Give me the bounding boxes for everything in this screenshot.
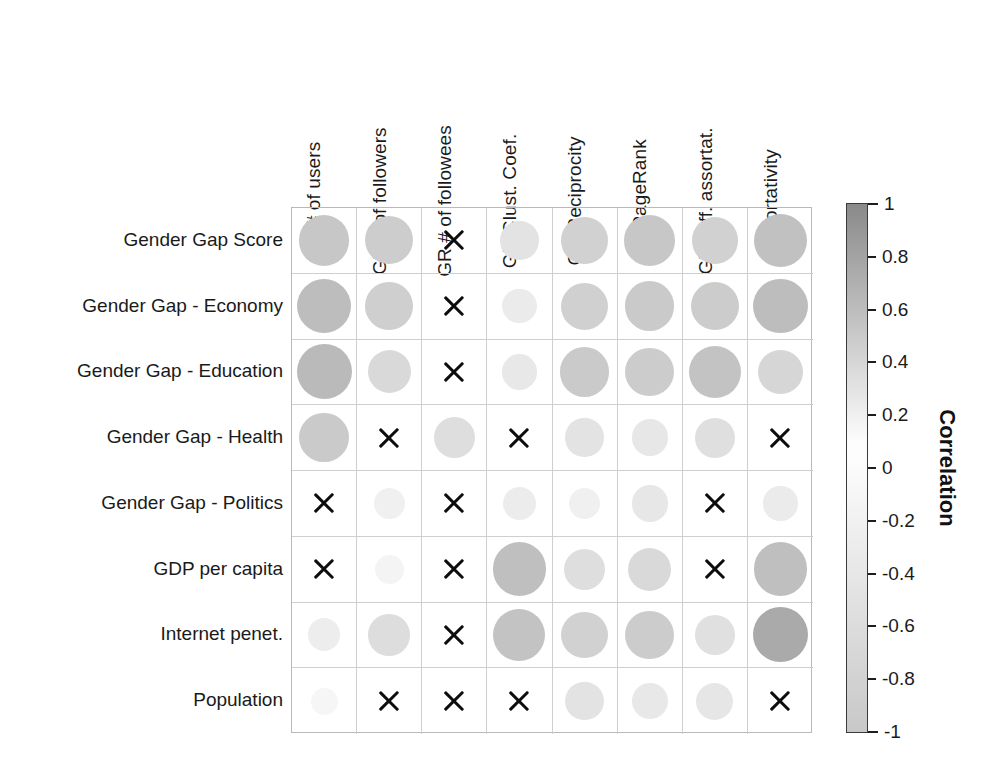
correlation-dot bbox=[297, 344, 352, 399]
matrix-cell bbox=[422, 274, 487, 340]
row-label-5: GDP per capita bbox=[0, 536, 283, 602]
row-label-3: Gender Gap - Health bbox=[0, 404, 283, 470]
matrix-cell bbox=[618, 668, 683, 734]
colorbar-tick-label: -1 bbox=[884, 721, 901, 743]
not-significant-x-icon bbox=[441, 490, 467, 516]
correlation-dot bbox=[754, 542, 807, 595]
matrix-cell bbox=[683, 405, 748, 471]
not-significant-x-icon bbox=[441, 227, 467, 253]
correlation-matrix-figure: GR # of usersGR # of followersGR # of fo… bbox=[0, 0, 1000, 772]
correlation-dot bbox=[308, 618, 341, 651]
matrix-cell bbox=[292, 471, 357, 537]
colorbar-tick-mark bbox=[868, 520, 876, 522]
correlation-dot bbox=[299, 413, 348, 462]
matrix-cell bbox=[487, 340, 552, 406]
colorbar-tick-mark bbox=[868, 625, 876, 627]
correlation-dot bbox=[434, 417, 475, 458]
colorbar-tick-mark bbox=[868, 467, 876, 469]
correlation-dot bbox=[624, 215, 674, 265]
matrix-cell bbox=[357, 405, 422, 471]
matrix-cell bbox=[487, 668, 552, 734]
correlation-dot bbox=[753, 607, 808, 662]
matrix-cell bbox=[487, 603, 552, 669]
matrix-cell bbox=[748, 208, 813, 274]
colorbar-tick-mark bbox=[868, 256, 876, 258]
matrix-cell bbox=[618, 274, 683, 340]
matrix-cell bbox=[683, 274, 748, 340]
matrix-cell bbox=[618, 405, 683, 471]
colorbar-title-text: Correlation bbox=[934, 409, 960, 526]
matrix-cell bbox=[357, 668, 422, 734]
matrix-cell bbox=[553, 405, 618, 471]
colorbar-tick-label: 0.8 bbox=[882, 246, 908, 268]
colorbar-tick-mark bbox=[868, 309, 876, 311]
colorbar-tick-mark bbox=[868, 573, 876, 575]
matrix-cell bbox=[422, 471, 487, 537]
correlation-dot bbox=[689, 346, 741, 398]
correlation-dot bbox=[632, 485, 668, 521]
not-significant-x-icon bbox=[506, 425, 532, 451]
matrix-cell bbox=[748, 603, 813, 669]
correlation-dot bbox=[754, 214, 807, 267]
matrix-cell bbox=[357, 208, 422, 274]
row-label-2: Gender Gap - Education bbox=[0, 339, 283, 405]
row-label-4: Gender Gap - Politics bbox=[0, 470, 283, 536]
matrix-cell bbox=[422, 537, 487, 603]
matrix-cell bbox=[357, 537, 422, 603]
correlation-dot bbox=[500, 221, 538, 259]
matrix-cell bbox=[292, 340, 357, 406]
correlation-dot bbox=[625, 281, 674, 330]
correlation-dot bbox=[632, 683, 668, 719]
colorbar-tick-label: 0.4 bbox=[882, 351, 908, 373]
correlation-dot bbox=[375, 555, 404, 584]
matrix-cell bbox=[553, 603, 618, 669]
correlation-dot bbox=[374, 488, 405, 519]
matrix-cell bbox=[748, 471, 813, 537]
not-significant-x-icon bbox=[441, 293, 467, 319]
not-significant-x-icon bbox=[376, 425, 402, 451]
correlation-dot bbox=[368, 614, 409, 655]
correlation-dot bbox=[502, 354, 538, 390]
row-label-1: Gender Gap - Economy bbox=[0, 273, 283, 339]
correlation-dot bbox=[561, 612, 607, 658]
colorbar-tick-label: -0.8 bbox=[882, 668, 915, 690]
correlation-dot bbox=[565, 682, 603, 720]
correlation-dot bbox=[503, 487, 537, 521]
colorbar-tick-label: -0.2 bbox=[882, 510, 915, 532]
row-label-axis: Gender Gap ScoreGender Gap - EconomyGend… bbox=[0, 207, 283, 733]
correlation-dot bbox=[625, 611, 673, 659]
correlation-dot bbox=[311, 688, 338, 715]
correlation-dot bbox=[561, 217, 607, 263]
matrix-cell bbox=[487, 537, 552, 603]
correlation-dot bbox=[758, 350, 802, 394]
correlation-dot bbox=[632, 419, 668, 455]
colorbar-tick-mark bbox=[868, 731, 878, 733]
not-significant-x-icon bbox=[702, 556, 728, 582]
matrix-cell bbox=[553, 340, 618, 406]
matrix-cell bbox=[553, 208, 618, 274]
matrix-cell bbox=[422, 668, 487, 734]
not-significant-x-icon bbox=[767, 688, 793, 714]
colorbar-tick-mark bbox=[868, 361, 876, 363]
column-label-axis: GR # of usersGR # of followersGR # of fo… bbox=[291, 0, 812, 207]
matrix-cell bbox=[748, 668, 813, 734]
not-significant-x-icon bbox=[767, 425, 793, 451]
correlation-dot bbox=[493, 609, 545, 661]
matrix-cell bbox=[748, 405, 813, 471]
correlation-dot bbox=[692, 217, 738, 263]
matrix-cell bbox=[292, 668, 357, 734]
matrix-cell bbox=[553, 668, 618, 734]
colorbar-tick-mark bbox=[868, 203, 878, 205]
colorbar-tick-label: 1 bbox=[884, 193, 895, 215]
correlation-dot bbox=[696, 683, 733, 720]
colorbar-tick-label: 0.6 bbox=[882, 299, 908, 321]
matrix-cell bbox=[683, 208, 748, 274]
correlation-dot bbox=[695, 418, 735, 458]
matrix-cell bbox=[683, 603, 748, 669]
correlation-dot bbox=[560, 347, 609, 396]
correlation-dot bbox=[365, 216, 413, 264]
matrix-cell bbox=[618, 603, 683, 669]
matrix-cell bbox=[553, 471, 618, 537]
matrix-cell bbox=[422, 340, 487, 406]
matrix-cell bbox=[292, 405, 357, 471]
